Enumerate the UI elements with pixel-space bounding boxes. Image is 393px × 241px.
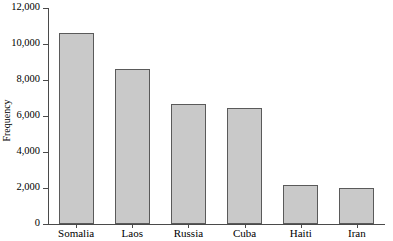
y-tick-label: 2,000 — [0, 181, 40, 192]
bar — [115, 69, 150, 224]
y-tick-label: 4,000 — [0, 145, 40, 156]
bar — [339, 188, 374, 224]
y-tick-label: 8,000 — [0, 73, 40, 84]
y-tick-label: 0 — [0, 217, 40, 228]
y-tick-mark — [43, 224, 48, 225]
bar — [283, 185, 318, 224]
bar — [59, 33, 94, 224]
bar-chart: Frequency 02,0004,0006,0008,00010,00012,… — [0, 0, 393, 241]
y-tick-label: 10,000 — [0, 37, 40, 48]
y-tick-label: 6,000 — [0, 109, 40, 120]
bars-layer — [48, 8, 385, 224]
y-tick-label: 12,000 — [0, 1, 40, 12]
bar — [171, 104, 206, 224]
x-axis-line — [48, 224, 385, 225]
bar — [227, 108, 262, 224]
x-tick-label: Iran — [317, 227, 393, 239]
